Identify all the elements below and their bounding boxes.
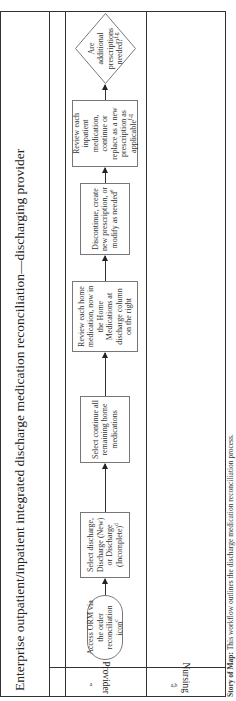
arrow-n5-n6 — [105, 168, 106, 183]
lane-label-provider: Providera — [65, 668, 146, 697]
title-divider — [49, 11, 50, 697]
arrow-n3-n4 — [105, 353, 106, 396]
lane-divider — [146, 11, 147, 697]
top-border — [0, 11, 1, 697]
caption-text: This workflow outlines the discharge med… — [226, 434, 235, 650]
arrow-n2-n3 — [105, 464, 106, 512]
caption: Story of Map: This workflow outlines the… — [226, 434, 235, 697]
process-review-home-meds: Review each home medication, now in the … — [72, 281, 138, 352]
caption-lead: Story of Map — [226, 655, 235, 698]
lane-top-divider — [65, 11, 66, 697]
process-discontinue-modify: Discontinue, create new prescription, or… — [80, 183, 130, 255]
process-continue-home-meds: Select continue all remaining home medic… — [80, 396, 130, 463]
flowchart: Enterprise outpatient/inpatient integrat… — [0, 0, 236, 701]
decision-additional-prescriptions: Are additional prescriptions needed?f,g — [75, 13, 136, 84]
arrow-n1-n2 — [105, 579, 106, 595]
start-node-access-orm: Access ORM via the order reconciliation … — [87, 595, 123, 660]
lane-label-nursing: Nursinga,b — [146, 668, 226, 697]
process-review-inpatient-meds: Review each inpatient medication, contin… — [72, 100, 138, 167]
arrow-n6-n7 — [105, 85, 106, 100]
arrow-n4-n5 — [105, 256, 106, 281]
process-select-discharge: Select discharge, Discharge (New) or Dis… — [80, 512, 130, 578]
diagram-title: Enterprise outpatient/inpatient integrat… — [12, 149, 28, 691]
